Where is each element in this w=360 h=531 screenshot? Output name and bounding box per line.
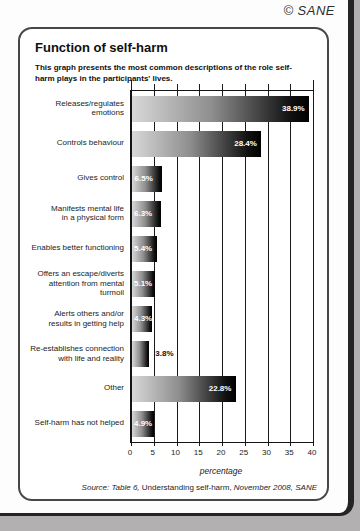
bar <box>132 341 149 367</box>
source-text-part: Source: Table 6, <box>82 483 142 492</box>
bar-value-label: 4.9% <box>134 419 152 428</box>
axis-tick <box>131 80 132 90</box>
gridline <box>268 91 269 442</box>
page: © SANE Function of self-harm This graph … <box>0 0 354 516</box>
bar-value-label: 6.3% <box>134 209 152 218</box>
bar-value-label: 5.4% <box>134 244 152 253</box>
gridline <box>290 91 291 442</box>
x-tick-label: 35 <box>285 448 294 457</box>
category-label: Offers an escape/diverts attention from … <box>24 269 124 298</box>
axis-tick <box>222 443 223 446</box>
x-tick-label: 15 <box>194 448 203 457</box>
panel-subtitle: This graph presents the most common desc… <box>35 63 307 84</box>
source-text-part: Understanding self-harm, <box>142 483 234 492</box>
bar-value-label: 3.8% <box>155 349 173 358</box>
axis-tick <box>154 443 155 446</box>
category-label: Gives control <box>24 173 124 183</box>
bar-value-label: 5.1% <box>134 279 152 288</box>
x-axis-label: percentage <box>200 466 243 476</box>
category-label: Self-harm has not helped <box>24 419 124 429</box>
axis-tick <box>313 443 314 446</box>
bar-chart-plot-area: 38.9%28.4%6.5%6.3%5.4%5.1%4.3%3.8%22.8%4… <box>130 90 314 443</box>
axis-tick <box>131 443 132 446</box>
panel-title: Function of self-harm <box>35 40 168 55</box>
source-text: Source: Table 6, Understanding self-harm… <box>40 483 317 492</box>
bar-value-label: 4.3% <box>134 314 152 323</box>
copyright-text: © SANE <box>283 3 335 18</box>
axis-tick <box>199 84 200 90</box>
bar-value-label: 6.5% <box>135 174 153 183</box>
axis-tick <box>245 443 246 446</box>
bar-value-label: 28.4% <box>234 139 257 148</box>
category-label: Alerts others and/or results in getting … <box>24 309 124 328</box>
source-text-part: November 2008, SANE <box>234 483 317 492</box>
x-tick-label: 20 <box>217 448 226 457</box>
x-tick-label: 10 <box>171 448 180 457</box>
category-label: Releases/regulates emotions <box>24 98 124 117</box>
category-label: Enables better functioning <box>24 243 124 253</box>
category-label: Controls behaviour <box>24 138 124 148</box>
bar-value-label: 22.8% <box>209 384 232 393</box>
axis-tick <box>268 443 269 446</box>
x-tick-label: 40 <box>308 448 317 457</box>
x-tick-label: 0 <box>128 448 132 457</box>
axis-tick <box>177 84 178 90</box>
category-label: Re-establishes connection with life and … <box>24 344 124 363</box>
bar-value-label: 38.9% <box>282 104 305 113</box>
category-label: Manifests mental life in a physical form <box>24 203 124 222</box>
gridline <box>313 91 314 442</box>
axis-tick <box>290 443 291 446</box>
axis-tick <box>245 84 246 90</box>
chart-panel: Function of self-harm This graph present… <box>18 27 329 501</box>
axis-tick <box>290 84 291 90</box>
x-tick-label: 5 <box>151 448 155 457</box>
axis-tick <box>154 84 155 90</box>
axis-tick <box>177 443 178 446</box>
x-tick-label: 30 <box>262 448 271 457</box>
category-label: Other <box>24 384 124 394</box>
x-tick-label: 25 <box>239 448 248 457</box>
axis-tick <box>222 84 223 90</box>
axis-tick <box>313 80 314 90</box>
axis-tick <box>268 84 269 90</box>
axis-tick <box>199 443 200 446</box>
